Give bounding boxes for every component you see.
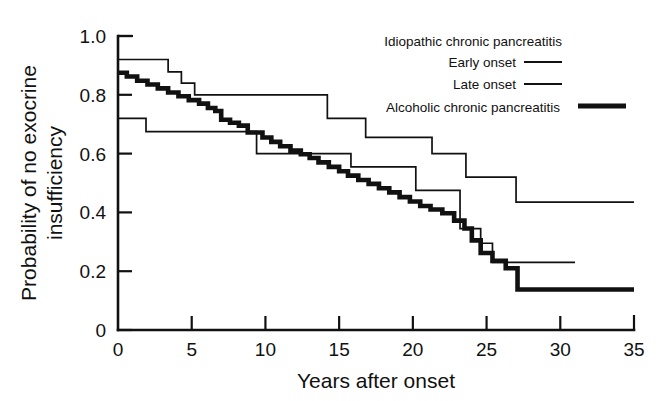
x-tick-marks <box>192 316 561 330</box>
survival-curve-plot: 00.20.40.60.81.0 05101520253035 Years af… <box>0 0 658 401</box>
y-tick-label-0.6: 0.6 <box>80 144 106 165</box>
x-tick-label-35: 35 <box>623 339 644 360</box>
y-tick-label-1.0: 1.0 <box>80 26 106 47</box>
x-tick-label-0: 0 <box>113 339 124 360</box>
y-tick-label-0.2: 0.2 <box>80 261 106 282</box>
x-tick-label-5: 5 <box>186 339 197 360</box>
y-axis-title-line2: insufficiency <box>43 126 66 241</box>
series-curves <box>118 36 634 289</box>
x-tick-labels: 05101520253035 <box>113 339 645 360</box>
y-tick-label-0: 0 <box>95 320 106 341</box>
x-tick-label-20: 20 <box>402 339 423 360</box>
x-tick-label-25: 25 <box>476 339 497 360</box>
x-tick-label-15: 15 <box>329 339 350 360</box>
x-tick-label-30: 30 <box>550 339 571 360</box>
legend-label-early-onset: Early onset <box>448 55 516 70</box>
y-tick-marks <box>118 36 132 330</box>
y-tick-labels: 00.20.40.60.81.0 <box>80 26 107 341</box>
curve-early-onset <box>118 36 634 202</box>
legend-label-alcoholic: Alcoholic chronic pancreatitis <box>386 100 560 115</box>
legend-title: Idiopathic chronic pancreatitis <box>384 34 562 49</box>
curve-late-onset <box>118 101 575 263</box>
y-tick-label-0.8: 0.8 <box>80 85 106 106</box>
x-axis-title: Years after onset <box>297 369 455 392</box>
legend: Idiopathic chronic pancreatitis Early on… <box>384 34 626 115</box>
y-axis-title-line1: Probability of no exocrine <box>17 65 40 301</box>
legend-label-late-onset: Late onset <box>453 77 516 92</box>
x-tick-label-10: 10 <box>255 339 276 360</box>
y-tick-label-0.4: 0.4 <box>80 202 107 223</box>
chart-figure: 00.20.40.60.81.0 05101520253035 Years af… <box>0 0 658 401</box>
